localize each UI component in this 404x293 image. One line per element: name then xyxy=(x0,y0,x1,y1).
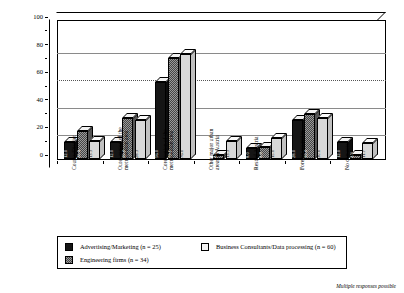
x-tick-mark xyxy=(103,161,104,164)
x-category-text: Core region of themetropolitan area xyxy=(162,106,174,170)
x-tick-mark xyxy=(330,161,331,164)
y-tick-label-40: 40 xyxy=(21,97,43,104)
legend-swatch-consultants xyxy=(201,243,209,251)
chart-legend: Advertising/Marketing (n = 25) Engineeri… xyxy=(57,236,347,269)
y-tick-mark-minor xyxy=(45,30,47,31)
y-tick-mark-minor xyxy=(45,141,47,142)
legend-label-consultants: Business Consultants/Data processing (n … xyxy=(216,243,336,251)
chart-footnote: Multiple responses possible xyxy=(336,283,396,289)
chart-figure: Percent of producer service firms 100 80… xyxy=(0,0,404,293)
x-category-text: Outer region of themetropolitan area xyxy=(117,106,129,170)
y-tick-mark-minor xyxy=(45,58,47,59)
x-category-text: County/District xyxy=(71,106,77,170)
legend-swatch-advertising xyxy=(65,243,73,251)
y-tick-label-100: 100 xyxy=(21,14,43,21)
y-tick-mark xyxy=(45,17,48,18)
y-tick-mark-minor xyxy=(45,86,47,87)
x-category-text: Foreign countries xyxy=(299,106,305,170)
y-tick-mark xyxy=(45,155,48,156)
x-category-text: No contacts xyxy=(344,106,350,170)
x-tick-mark xyxy=(239,161,240,164)
y-tick-mark xyxy=(45,72,48,73)
x-tick-mark xyxy=(148,161,149,164)
x-category-text: Other major urbanareas in Austria xyxy=(208,106,220,170)
y-tick-label-0: 0 xyxy=(21,152,43,159)
x-category-text: Rest of Austria xyxy=(253,106,259,170)
legend-label-engineering: Engineering firms (n = 34) xyxy=(80,256,149,264)
x-tick-mark xyxy=(285,161,286,164)
y-tick-mark xyxy=(45,127,48,128)
x-tick-mark xyxy=(194,161,195,164)
y-tick-label-20: 20 xyxy=(21,124,43,131)
y-tick-mark xyxy=(45,99,48,100)
x-tick-mark xyxy=(57,161,58,164)
y-tick-label-80: 80 xyxy=(21,42,43,49)
y-tick-label-60: 60 xyxy=(21,69,43,76)
legend-label-advertising: Advertising/Marketing (n = 25) xyxy=(80,243,161,251)
legend-swatch-engineering xyxy=(65,256,73,264)
y-tick-mark-minor xyxy=(45,113,47,114)
y-tick-mark xyxy=(45,44,48,45)
